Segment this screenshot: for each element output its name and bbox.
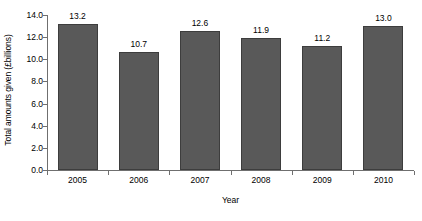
bar-value-label: 11.2 [314,34,330,43]
y-axis-tick-labels: 0.02.04.06.08.010.012.014.0 [12,0,43,221]
bar-chart: Total amounts given (£billions) 0.02.04.… [0,0,422,221]
y-axis-tick-label: 6.0 [12,99,43,108]
y-axis-tick-label: 10.0 [12,55,43,64]
y-axis-tick-mark [43,126,47,127]
y-axis-tick-mark [43,104,47,105]
bar-group[interactable]: 10.7 [119,15,159,170]
x-axis-tick-mark [47,171,48,175]
bar[interactable] [58,24,98,170]
x-axis-tick-label: 2010 [374,176,393,185]
x-axis-title: Year [47,196,414,205]
x-axis-tick-label: 2009 [313,176,332,185]
bar-group[interactable]: 13.0 [363,15,403,170]
x-axis-tick-labels: 200520062007200820092010 [47,176,414,188]
x-axis-tick-mark [353,171,354,175]
x-axis-tick-mark [414,171,415,175]
x-axis-tick-mark [108,171,109,175]
x-axis-tick-label: 2006 [129,176,148,185]
x-axis-tick-mark [231,171,232,175]
bar[interactable] [180,31,220,171]
x-axis-tick-mark [292,171,293,175]
y-axis-tick-label: 14.0 [12,11,43,20]
y-axis-tick-mark [43,59,47,60]
bar-group[interactable]: 13.2 [58,15,98,170]
bar[interactable] [363,26,403,170]
bar-value-label: 13.0 [375,14,392,23]
bar-value-label: 11.9 [253,26,269,35]
x-axis-tick-label: 2008 [252,176,271,185]
y-axis-tick-mark [43,81,47,82]
bar-series: 13.210.712.611.911.213.0 [47,15,414,170]
y-axis-tick-label: 2.0 [12,144,43,153]
bar-group[interactable]: 11.9 [241,15,281,170]
bar-value-label: 13.2 [69,12,86,21]
y-axis-tick-mark [43,37,47,38]
y-axis-tick-mark [43,15,47,16]
bar-value-label: 12.6 [192,19,209,28]
y-axis-tick-mark [43,148,47,149]
bar[interactable] [119,52,159,170]
x-axis-tick-label: 2007 [190,176,209,185]
y-axis-tick-label: 0.0 [12,166,43,175]
bar-value-label: 10.7 [130,40,147,49]
bar-group[interactable]: 12.6 [180,15,220,170]
x-axis-tick-label: 2005 [68,176,87,185]
bar-group[interactable]: 11.2 [302,15,342,170]
y-axis-tick-label: 12.0 [12,33,43,42]
bar[interactable] [302,46,342,170]
plot-area: 13.210.712.611.911.213.0 [47,15,414,170]
x-axis-tick-mark [169,171,170,175]
y-axis-tick-label: 4.0 [12,121,43,130]
bar[interactable] [241,38,281,170]
y-axis-tick-label: 8.0 [12,77,43,86]
